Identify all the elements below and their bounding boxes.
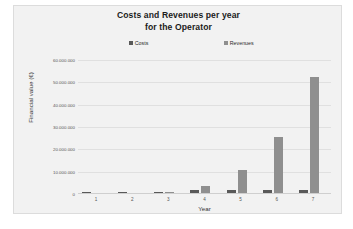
chart-legend: Costs Revenues bbox=[14, 39, 343, 49]
bar-costs-year-2 bbox=[118, 192, 127, 193]
y-axis-tick-label: 10.000.000 bbox=[53, 169, 75, 174]
bar-revenues-year-4 bbox=[201, 186, 210, 193]
bar-costs-year-1 bbox=[82, 192, 91, 193]
y-axis-tick-label: 0 bbox=[73, 192, 75, 197]
bar-costs-year-7 bbox=[299, 190, 308, 193]
x-axis-line bbox=[78, 193, 331, 194]
bar-revenues-year-7 bbox=[310, 77, 319, 193]
bar-group: 4 bbox=[186, 60, 222, 193]
bar-costs-year-6 bbox=[263, 190, 272, 193]
chart-title-line-1: Costs and Revenues per year bbox=[14, 10, 343, 22]
x-axis-tick-label: 7 bbox=[299, 197, 327, 202]
legend-label-revenues: Revenues bbox=[230, 40, 254, 46]
plot-area: 60.000.00050.000.00040.000.00030.000.000… bbox=[78, 60, 331, 194]
y-axis-tick-label: 40.000.000 bbox=[53, 102, 75, 107]
bar-costs-year-3 bbox=[154, 192, 163, 193]
bar-group: 2 bbox=[114, 60, 150, 193]
x-axis-tick-label: 2 bbox=[118, 197, 146, 202]
x-axis-tick-label: 1 bbox=[82, 197, 110, 202]
bar-group: 6 bbox=[259, 60, 295, 193]
y-axis-title: Financial value (€) bbox=[27, 43, 34, 153]
x-axis-tick-label: 3 bbox=[154, 197, 182, 202]
bar-costs-year-4 bbox=[190, 190, 199, 193]
chart-title: Costs and Revenues per year for the Oper… bbox=[14, 10, 343, 33]
y-axis-tick-label: 60.000.000 bbox=[53, 58, 75, 63]
legend-swatch-costs-icon bbox=[129, 41, 133, 45]
bar-revenues-year-5 bbox=[238, 170, 247, 193]
bar-revenues-year-3 bbox=[165, 192, 174, 193]
legend-label-costs: Costs bbox=[135, 40, 149, 46]
x-axis-tick-label: 4 bbox=[190, 197, 218, 202]
bar-group: 3 bbox=[150, 60, 186, 193]
bar-revenues-year-6 bbox=[274, 137, 283, 193]
y-axis-tick-label: 30.000.000 bbox=[53, 125, 75, 130]
legend-item-revenues: Revenues bbox=[224, 39, 254, 47]
bar-costs-year-5 bbox=[227, 190, 236, 193]
x-axis-tick-label: 6 bbox=[263, 197, 291, 202]
x-axis-tick-label: 5 bbox=[227, 197, 255, 202]
legend-item-costs: Costs bbox=[129, 39, 148, 47]
legend-swatch-revenues-icon bbox=[224, 41, 228, 45]
bar-group: 7 bbox=[295, 60, 331, 193]
bar-group: 1 bbox=[78, 60, 114, 193]
chart-title-line-2: for the Operator bbox=[14, 22, 343, 34]
bar-group: 5 bbox=[223, 60, 259, 193]
x-axis-title: Year bbox=[78, 205, 331, 212]
chart-container: Costs and Revenues per year for the Oper… bbox=[13, 5, 342, 214]
y-axis-tick-label: 50.000.000 bbox=[53, 80, 75, 85]
y-axis-tick-label: 20.000.000 bbox=[53, 147, 75, 152]
